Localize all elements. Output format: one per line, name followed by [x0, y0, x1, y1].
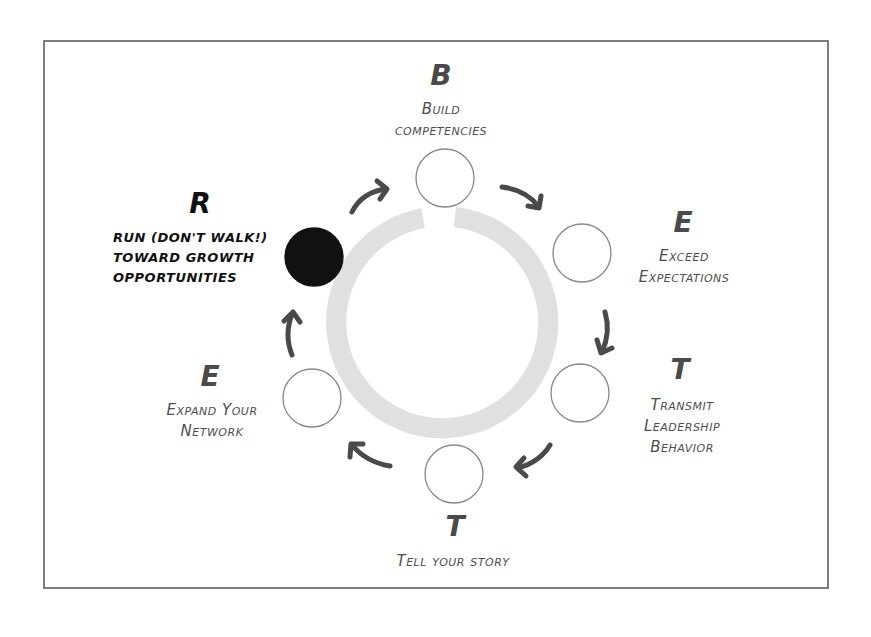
step-label-line: Transmit: [644, 395, 720, 416]
step-label-build: Build competencies: [395, 99, 487, 141]
step-label-line: Expand Your: [166, 400, 257, 421]
step-label-line: Expectations: [639, 267, 730, 288]
arrow-expand-to-run-icon: [284, 312, 300, 355]
step-label-line: Tell your story: [396, 551, 509, 572]
step-label-line: Build: [395, 99, 487, 120]
step-letter-t-tell: T: [445, 513, 464, 541]
step-letter-e-exceed: E: [673, 209, 692, 237]
step-circle-expand[interactable]: [283, 369, 341, 427]
step-label-line: Leadership: [644, 416, 720, 437]
arrow-exceed-to-transmit-icon: [597, 312, 612, 353]
arrow-transmit-to-tell-icon: [516, 445, 550, 476]
step-letter-t-transmit: T: [670, 356, 689, 384]
step-label-run: Run (don't walk!) toward growth opportun…: [113, 228, 268, 288]
step-label-exceed: Exceed Expectations: [639, 246, 730, 288]
step-circle-build[interactable]: [416, 149, 474, 207]
step-label-transmit: Transmit Leadership Behavior: [644, 395, 720, 458]
arrow-tell-to-expand-icon: [350, 444, 390, 466]
step-label-line: Network: [166, 421, 257, 442]
step-label-line: Run (don't walk!): [113, 228, 268, 248]
step-circle-exceed[interactable]: [553, 224, 611, 282]
center-ring: [336, 217, 548, 428]
step-circle-run-active[interactable]: [285, 228, 343, 286]
step-label-line: toward growth: [113, 248, 268, 268]
step-label-line: Exceed: [639, 246, 730, 267]
step-label-tell: Tell your story: [396, 551, 509, 572]
step-label-line: competencies: [395, 120, 487, 141]
step-letter-r: R: [189, 190, 211, 218]
step-circle-transmit[interactable]: [551, 364, 609, 422]
step-circle-tell[interactable]: [425, 445, 483, 503]
step-letter-b: B: [430, 62, 451, 90]
step-label-line: Behavior: [644, 437, 720, 458]
cycle-diagram: [0, 0, 871, 637]
step-label-line: opportunities: [113, 268, 268, 288]
arrow-run-to-build-icon: [352, 181, 387, 212]
arrow-build-to-exceed-icon: [502, 187, 541, 208]
step-letter-e-expand: E: [200, 363, 219, 391]
step-label-expand: Expand Your Network: [166, 400, 257, 442]
